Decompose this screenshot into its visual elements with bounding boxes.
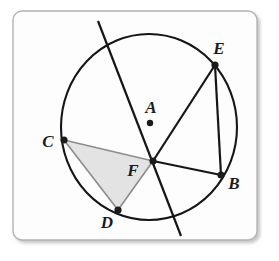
point-c-dot [60, 136, 67, 143]
point-a-dot [147, 120, 153, 126]
point-label-c: C [42, 132, 54, 151]
geometry-canvas: A B C D E F [0, 0, 279, 261]
point-f-dot [149, 157, 156, 164]
point-label-e: E [212, 39, 224, 58]
point-b-dot [217, 171, 224, 178]
point-d-dot [114, 206, 121, 213]
point-label-a: A [144, 98, 156, 117]
point-label-d: D [100, 213, 113, 232]
point-e-dot [211, 61, 218, 68]
point-label-f: F [126, 161, 139, 180]
point-label-b: B [227, 174, 239, 193]
geometry-figure: A B C D E F [0, 0, 279, 261]
